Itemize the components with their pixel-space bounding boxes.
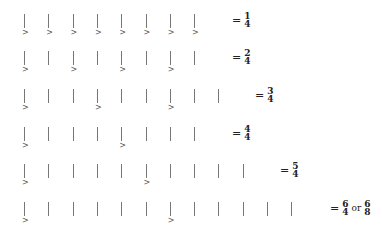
- beat: [119, 202, 127, 230]
- beat-bar: [24, 202, 25, 216]
- equals-sign: =: [330, 202, 339, 215]
- beat-bar: [170, 202, 171, 216]
- beat: >: [22, 127, 30, 155]
- beat: >: [22, 51, 30, 79]
- accent-mark-icon: >: [22, 66, 29, 74]
- beat: >: [71, 14, 79, 42]
- beat: [46, 164, 54, 192]
- beat-bar: [48, 127, 49, 141]
- beat-row: >>=44: [0, 127, 382, 157]
- beat: [71, 89, 79, 117]
- equals-sign: =: [255, 89, 264, 102]
- accent-mark-icon: >: [144, 179, 151, 187]
- accent-mark-icon: >: [119, 66, 126, 74]
- beat-bar: [243, 164, 244, 178]
- beat-bar: [48, 164, 49, 178]
- beat-bar: [146, 14, 147, 28]
- beat-bar: [48, 51, 49, 65]
- beat: [192, 164, 200, 192]
- beat-bar: [218, 89, 219, 103]
- time-signature: =14: [232, 12, 250, 28]
- fraction: 14: [244, 12, 250, 28]
- beat: [46, 89, 54, 117]
- beat-bar: [121, 127, 122, 141]
- accent-mark-icon: >: [22, 179, 29, 187]
- beat: [216, 202, 224, 230]
- beat-bar: [48, 89, 49, 103]
- beat: >: [144, 164, 152, 192]
- beat: [46, 127, 54, 155]
- beat: >: [22, 202, 30, 230]
- beat: [144, 127, 152, 155]
- beat-row: >>=64or68: [0, 202, 382, 232]
- beat-bar: [170, 127, 171, 141]
- beat-bar: [146, 89, 147, 103]
- beat-row: >>>=34: [0, 89, 382, 119]
- beat: >: [22, 164, 30, 192]
- accent-mark-icon: >: [168, 217, 175, 225]
- beat-bar: [97, 14, 98, 28]
- beat: >: [144, 14, 152, 42]
- beat-bar: [24, 51, 25, 65]
- beat: [144, 89, 152, 117]
- time-signature: =54: [280, 162, 298, 178]
- beat-bar: [97, 89, 98, 103]
- beat-bar: [194, 202, 195, 216]
- beat-bar: [194, 89, 195, 103]
- beat: >: [95, 14, 103, 42]
- beat: [216, 89, 224, 117]
- beat-bar: [73, 51, 74, 65]
- beat-bar: [48, 14, 49, 28]
- or-label: or: [351, 203, 361, 213]
- beat-bar: [73, 89, 74, 103]
- beat: >: [71, 51, 79, 79]
- beat-bar: [73, 127, 74, 141]
- accent-mark-icon: >: [119, 29, 126, 37]
- time-signature: =34: [255, 87, 273, 103]
- equals-sign: =: [232, 127, 241, 140]
- accent-mark-icon: >: [22, 29, 29, 37]
- equals-sign: =: [232, 51, 241, 64]
- beat-bar: [146, 51, 147, 65]
- beat: >: [119, 14, 127, 42]
- accent-mark-icon: >: [22, 217, 29, 225]
- beat-bar: [267, 202, 268, 216]
- beat-bar: [194, 14, 195, 28]
- beat-bar: [170, 14, 171, 28]
- beat: [71, 127, 79, 155]
- accent-mark-icon: >: [144, 29, 151, 37]
- beat: [144, 51, 152, 79]
- time-signature: =64or68: [330, 200, 370, 216]
- beat-bar: [194, 51, 195, 65]
- beat-bar: [24, 89, 25, 103]
- time-signature: =24: [232, 49, 250, 65]
- beat-row: >>>>>>>>=14: [0, 14, 382, 44]
- beat-bar: [243, 202, 244, 216]
- beat-bar: [170, 89, 171, 103]
- beat: [95, 51, 103, 79]
- beat-bar: [121, 14, 122, 28]
- accent-mark-icon: >: [71, 29, 78, 37]
- fraction: 34: [267, 87, 273, 103]
- beat-bar: [24, 164, 25, 178]
- beat: [119, 89, 127, 117]
- beat: [241, 202, 249, 230]
- beat-row: >>>>=24: [0, 51, 382, 81]
- beat-bar: [97, 51, 98, 65]
- beat: [144, 202, 152, 230]
- beat-bar: [121, 202, 122, 216]
- beat: [192, 127, 200, 155]
- beat: [168, 127, 176, 155]
- beat: [241, 164, 249, 192]
- beat: >: [22, 14, 30, 42]
- beat-bar: [121, 51, 122, 65]
- time-signature: =44: [232, 125, 250, 141]
- beat: >: [192, 14, 200, 42]
- beat: [289, 202, 297, 230]
- accent-mark-icon: >: [168, 104, 175, 112]
- beat-bar: [170, 164, 171, 178]
- accent-mark-icon: >: [119, 142, 126, 150]
- beat: >: [168, 89, 176, 117]
- beat: >: [22, 89, 30, 117]
- beat-bar: [194, 127, 195, 141]
